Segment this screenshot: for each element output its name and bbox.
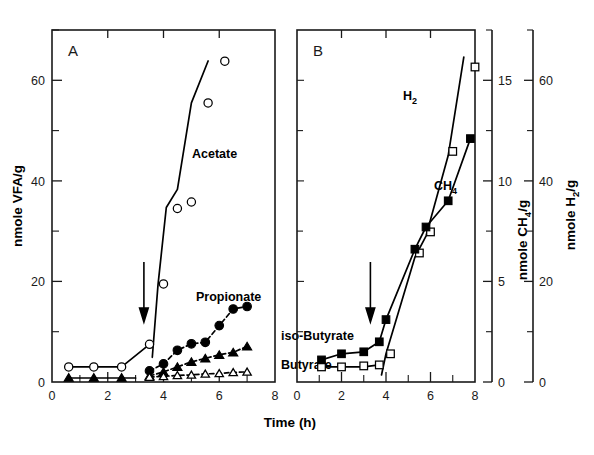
marker-propionate <box>187 340 196 349</box>
marker-ch4 <box>376 338 384 346</box>
ch4-tick-15: 15 <box>498 74 512 88</box>
ch4-tick-5: 5 <box>498 275 505 289</box>
panel-b-arrow-icon <box>366 262 375 322</box>
panel-a-xtick-8: 8 <box>272 389 279 403</box>
marker-acetate <box>90 363 98 371</box>
marker-h2 <box>471 63 479 71</box>
series-label-h2: H2 <box>403 89 417 106</box>
marker-ch4 <box>411 245 419 253</box>
panel-a-ytick-20: 20 <box>31 275 45 289</box>
panel-a-ytick-0: 0 <box>38 376 45 390</box>
marker-ch4 <box>467 135 475 143</box>
marker-propionate <box>229 305 238 314</box>
panel-a-ytick-40: 40 <box>31 175 45 189</box>
panel-a-y-axis-title: nmole VFA/g <box>10 165 25 247</box>
h2-tick-20: 20 <box>539 275 553 289</box>
panel-a-label: A <box>68 42 78 59</box>
h2-axis: 0 20 40 60 nmole H2/g <box>524 30 581 390</box>
marker-acetate <box>187 198 195 206</box>
marker-acetate <box>145 340 153 348</box>
marker-acetate <box>118 363 126 371</box>
marker-propionate <box>215 321 224 330</box>
marker-propionate <box>173 346 182 355</box>
marker-h2 <box>376 361 384 369</box>
series-h2: H2 <box>318 57 479 375</box>
marker-acetate <box>159 280 167 288</box>
panel-a-xtick-2: 2 <box>104 389 111 403</box>
panel-b-xtick-4: 4 <box>383 389 390 403</box>
marker-iso-butyrate <box>243 342 252 350</box>
series-label-acetate: Acetate <box>192 147 237 161</box>
panel-b: 0 2 4 6 8 B H2 <box>294 30 479 403</box>
panel-a-xtick-6: 6 <box>216 389 223 403</box>
panel-b-xtick-2: 2 <box>338 389 345 403</box>
series-label-iso-butyrate: iso-Butyrate <box>281 329 354 343</box>
marker-propionate <box>201 338 210 347</box>
figure-svg: 0 2 4 6 8 0 20 40 60 nmole VFA/g A <box>0 0 594 455</box>
panel-a-arrow-icon <box>140 262 149 322</box>
marker-ch4 <box>382 316 390 324</box>
marker-h2 <box>338 363 346 371</box>
h2-axis-title: nmole H2/g <box>563 180 581 251</box>
marker-acetate <box>173 204 181 212</box>
h2-tick-40: 40 <box>539 175 553 189</box>
panel-a-y-ticks <box>52 30 62 332</box>
series-label-propionate: Propionate <box>196 290 261 304</box>
panel-b-xtick-8: 8 <box>472 389 479 403</box>
marker-h2 <box>449 148 457 156</box>
marker-acetate <box>204 99 212 107</box>
figure-root: 0 2 4 6 8 0 20 40 60 nmole VFA/g A <box>0 0 594 455</box>
panel-b-label: B <box>313 42 323 59</box>
marker-h2 <box>360 362 368 370</box>
panel-b-left-ticks <box>297 80 304 331</box>
h2-tick-0: 0 <box>539 376 546 390</box>
panel-a-xtick-0: 0 <box>49 389 56 403</box>
marker-ch4 <box>444 197 452 205</box>
ch4-axis: 0 5 10 15 nmole CH4/g <box>483 30 533 390</box>
marker-h2 <box>387 350 395 358</box>
ch4-axis-title: nmole CH4/g <box>515 200 533 280</box>
panel-b-xtick-0: 0 <box>294 389 301 403</box>
ch4-tick-10: 10 <box>498 175 512 189</box>
panel-a-xtick-4: 4 <box>160 389 167 403</box>
marker-ch4 <box>422 223 430 231</box>
ch4-tick-0: 0 <box>498 376 505 390</box>
h2-tick-60: 60 <box>539 74 553 88</box>
marker-ch4 <box>360 348 368 356</box>
panel-a-ytick-60: 60 <box>31 74 45 88</box>
marker-acetate <box>65 363 73 371</box>
marker-acetate <box>221 57 229 65</box>
marker-ch4 <box>338 350 346 358</box>
panel-a: 0 2 4 6 8 0 20 40 60 nmole VFA/g A <box>10 30 354 403</box>
marker-ch4 <box>318 356 326 364</box>
x-axis-title: Time (h) <box>264 415 316 430</box>
series-acetate: Acetate <box>65 57 238 371</box>
panel-a-frame <box>52 30 275 382</box>
panel-b-xtick-6: 6 <box>427 389 434 403</box>
